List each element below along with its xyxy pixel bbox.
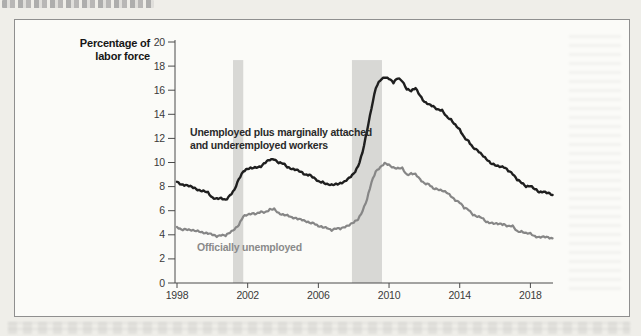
unemployment-line-chart: 0246810121416182019982002200620102014201… bbox=[15, 20, 629, 316]
page-bleed-text-top bbox=[2, 0, 154, 8]
y-tick-label: 0 bbox=[159, 277, 165, 289]
y-tick-label: 16 bbox=[154, 84, 166, 96]
y-tick-label: 6 bbox=[159, 204, 165, 216]
y-tick-label: 2 bbox=[159, 252, 165, 264]
x-tick-label: 2002 bbox=[236, 289, 259, 301]
y-axis-title-line2: labor force bbox=[35, 50, 150, 63]
y-tick-label: 10 bbox=[154, 156, 166, 168]
series1-annotation: Unemployed plus marginally attached and … bbox=[190, 126, 372, 152]
y-axis-title-line1: Percentage of bbox=[35, 37, 150, 50]
x-tick-label: 1998 bbox=[166, 289, 189, 301]
series1-annotation-line1: Unemployed plus marginally attached bbox=[190, 126, 372, 139]
x-tick-label: 2006 bbox=[307, 289, 330, 301]
textbook-page: 0246810121416182019982002200620102014201… bbox=[0, 0, 641, 336]
y-tick-label: 18 bbox=[154, 60, 166, 72]
y-axis-title: Percentage of labor force bbox=[35, 37, 150, 63]
y-tick-label: 8 bbox=[159, 180, 165, 192]
y-tick-label: 14 bbox=[154, 108, 166, 120]
x-tick-label: 2010 bbox=[378, 289, 401, 301]
x-tick-label: 2018 bbox=[519, 289, 542, 301]
figure-panel: 0246810121416182019982002200620102014201… bbox=[14, 19, 630, 317]
axis-ticks: 0246810121416182019982002200620102014201… bbox=[154, 36, 542, 302]
series1-annotation-line2: and underemployed workers bbox=[190, 139, 372, 152]
series2-annotation: Officially unemployed bbox=[197, 241, 302, 254]
y-tick-label: 4 bbox=[159, 228, 165, 240]
y-tick-label: 12 bbox=[154, 132, 166, 144]
y-tick-label: 20 bbox=[154, 36, 166, 48]
x-tick-label: 2014 bbox=[448, 289, 471, 301]
page-bleed-text-bottom bbox=[8, 322, 630, 334]
